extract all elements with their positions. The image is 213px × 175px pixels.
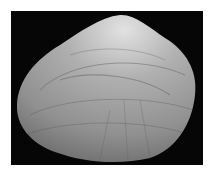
shell-photo	[0, 0, 213, 175]
shell	[17, 15, 195, 162]
